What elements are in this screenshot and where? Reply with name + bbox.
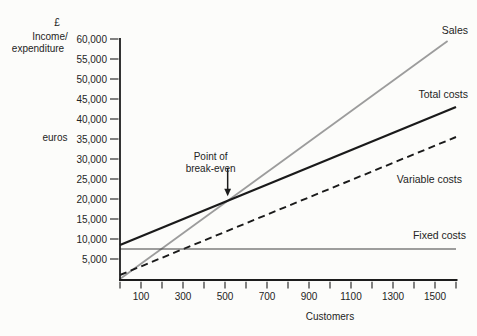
series-label-total-costs: Total costs: [418, 88, 468, 100]
axes-group: 60,00055,00050,00045,00040,00035,00030,0…: [76, 34, 457, 303]
y-axis-tick-label: 35,000: [76, 134, 107, 145]
series-label-sales: Sales: [442, 24, 468, 36]
break-even-chart-figure: £ Income/ expenditure euros Customers Sa…: [0, 0, 477, 336]
x-axis-tick-label: 1300: [382, 291, 405, 302]
y-axis-tick-label: 45,000: [76, 94, 107, 105]
y-axis-tick-label: 5,000: [82, 254, 107, 265]
x-axis-tick-label: 1100: [340, 291, 362, 302]
y-axis-tick-label: 15,000: [76, 214, 107, 225]
y-axis-tick-label: 55,000: [76, 54, 107, 65]
y-axis-tick-label: 60,000: [76, 34, 107, 45]
annotation-group: Point ofbreak-even: [186, 151, 236, 197]
y-axis-currency-symbol: £: [54, 17, 60, 28]
y-axis-tick-label: 40,000: [76, 114, 107, 125]
series-label-variable-costs: Variable costs: [397, 173, 462, 185]
x-axis-tick-label: 500: [217, 291, 234, 302]
y-axis-tick-label: 30,000: [76, 154, 107, 165]
y-axis-unit-label: euros: [42, 132, 67, 143]
y-axis-title-line1: Income/: [32, 31, 68, 42]
break-even-label-line1: Point of: [194, 151, 228, 162]
y-axis-tick-label: 10,000: [76, 234, 107, 245]
x-axis-tick-label: 900: [301, 291, 318, 302]
x-axis-tick-label: 300: [175, 291, 192, 302]
x-axis-tick-label: 700: [259, 291, 276, 302]
chart-canvas: £ Income/ expenditure euros Customers Sa…: [0, 0, 477, 336]
break-even-arrow-head: [224, 189, 231, 197]
series-lines-group: SalesTotal costsVariable costsFixed cost…: [120, 24, 468, 279]
x-axis-tick-label: 1500: [424, 291, 447, 302]
series-label-fixed-costs: Fixed costs: [413, 229, 466, 241]
x-axis-title: Customers: [306, 311, 354, 322]
y-axis-tick-label: 50,000: [76, 74, 107, 85]
y-axis-title-line2: expenditure: [12, 43, 65, 54]
break-even-label-line2: break-even: [186, 163, 236, 174]
x-axis-tick-label: 100: [133, 291, 150, 302]
y-axis-tick-label: 25,000: [76, 174, 107, 185]
y-axis-tick-label: 20,000: [76, 194, 107, 205]
